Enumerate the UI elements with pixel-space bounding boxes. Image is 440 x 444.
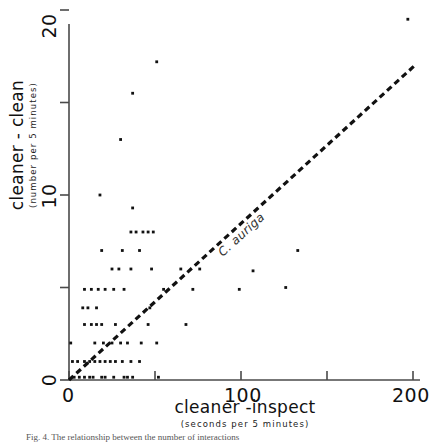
data-point [119,342,122,345]
x-axis-title-group: cleaner -inspect (seconds per 5 minutes) [120,398,370,429]
data-point [112,288,115,291]
y-tick-label-10: 10 [38,180,60,212]
data-point [112,376,115,379]
data-point [73,376,76,379]
data-point [198,268,201,271]
data-point [126,342,129,345]
x-tick-label-0: 0 [62,384,75,406]
data-point [90,288,93,291]
data-point [104,288,107,291]
figure-caption: Fig. 4. The relationship between the num… [26,432,436,442]
data-point [109,360,112,363]
data-point [100,323,103,326]
data-point [155,342,158,345]
data-point [131,92,134,95]
data-point [162,288,165,291]
data-point [97,288,100,291]
data-point [135,231,138,234]
data-point [100,376,103,379]
data-point [114,323,117,326]
data-point [152,231,155,234]
data-point [238,288,241,291]
x-tick-label-200: 200 [392,384,430,406]
data-point [78,376,81,379]
x-axis-ticks [69,371,413,380]
data-point [252,269,255,272]
data-point [191,288,194,291]
data-point [100,249,103,252]
data-point [123,288,126,291]
data-point [111,268,114,271]
y-axis-ticks [60,10,69,380]
data-point [130,268,133,271]
data-point [104,376,107,379]
data-point [87,306,90,309]
data-point [284,286,287,289]
data-point [83,323,86,326]
data-point [95,323,98,326]
data-point [111,342,114,345]
data-point [69,342,72,345]
data-point [114,360,117,363]
data-point [93,360,96,363]
data-point [71,360,74,363]
data-point [126,376,129,379]
data-point [130,360,133,363]
data-point [142,231,145,234]
data-point [76,360,79,363]
data-point [99,360,102,363]
data-point [147,231,150,234]
data-point [104,360,107,363]
data-point [119,138,122,141]
data-point [88,360,91,363]
data-point [130,231,133,234]
data-point [155,60,158,63]
data-point [131,207,134,210]
data-point [117,268,120,271]
data-point [102,342,105,345]
data-point [138,249,141,252]
data-point [92,376,95,379]
data-point [95,306,98,309]
data-point [83,360,86,363]
data-point [185,323,188,326]
data-point [121,360,124,363]
x-axis-subtitle: (seconds per 5 minutes) [120,419,370,429]
data-point [150,268,153,271]
data-point [179,268,182,271]
x-axis-title: cleaner -inspect [120,398,370,417]
y-tick-label-0: 0 [38,369,60,391]
data-point [83,288,86,291]
data-point [147,323,150,326]
scatter-plot [0,0,440,444]
data-point [99,194,102,197]
data-points [69,18,409,379]
data-point [83,376,86,379]
data-point [131,376,134,379]
figure-container: C. auriga 0 10 20 0 100 200 cleaner - cl… [0,0,440,444]
data-point [157,376,160,379]
data-point [406,18,409,21]
data-point [90,323,93,326]
data-point [81,306,84,309]
data-point [296,249,299,252]
data-point [93,342,96,345]
data-point [140,342,143,345]
data-point [123,376,126,379]
data-point [88,376,91,379]
data-point [121,249,124,252]
data-point [148,306,151,309]
y-tick-label-20: 20 [38,10,60,42]
data-point [138,360,141,363]
